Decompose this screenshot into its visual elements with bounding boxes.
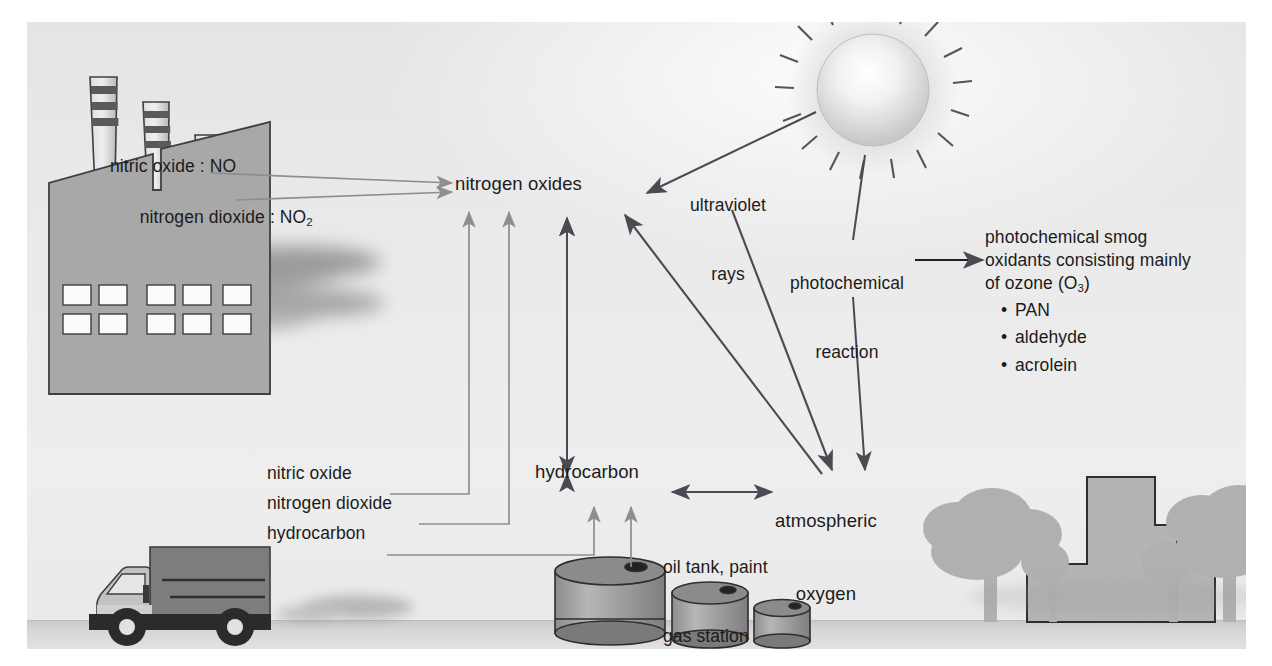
label-photochemical-line2: reaction	[779, 341, 915, 364]
label-smog-line3: of ozone (O3)	[985, 272, 1235, 295]
list-item: PAN	[1015, 297, 1235, 324]
label-smog-line2: oxidants consisting mainly	[985, 249, 1235, 272]
node-photochemical-reaction: photochemical reaction	[779, 226, 915, 411]
arrow-vehicle-hc-to-hydrocarbon	[387, 507, 594, 555]
label-ozone-close: )	[1084, 273, 1090, 293]
label-smog-line1: photochemical smog	[985, 226, 1235, 249]
node-hydrocarbon: hydrocarbon	[535, 460, 639, 484]
subscript-2: 2	[306, 216, 313, 228]
label-oil-tank-line2: gas station	[663, 625, 768, 648]
arrow-vehicle-no2-to-nox	[419, 212, 509, 524]
label-nitric-oxide-source: nitric oxide : NO	[110, 155, 236, 178]
label-oil-tank: oil tank, paint gas station	[663, 510, 768, 649]
label-atmospheric-line2: oxygen	[775, 582, 877, 606]
figure-page: nitric oxide : NO nitrogen dioxide : NO2…	[0, 0, 1272, 666]
node-nitrogen-oxides: nitrogen oxides	[455, 172, 582, 196]
list-item: acrolein	[1015, 352, 1235, 379]
label-uv-line2: rays	[673, 263, 783, 286]
arrow-vehicle-no-to-nox	[390, 212, 469, 494]
subscript-3: 3	[1078, 282, 1085, 294]
label-nitrogen-dioxide-source-text: nitrogen dioxide : NO	[140, 207, 307, 227]
label-atmospheric-line1: atmospheric	[775, 509, 877, 533]
list-item: aldehyde	[1015, 324, 1235, 351]
label-oil-tank-line1: oil tank, paint	[663, 556, 768, 579]
node-photochemical-smog: photochemical smog oxidants consisting m…	[985, 226, 1235, 379]
label-vehicle-nitric-oxide: nitric oxide	[267, 462, 352, 485]
label-vehicle-hydrocarbon: hydrocarbon	[267, 522, 365, 545]
label-ozone-text: of ozone (O	[985, 273, 1078, 293]
arrow-no-to-nox	[210, 173, 452, 183]
label-vehicle-nitrogen-dioxide: nitrogen dioxide	[267, 492, 392, 515]
label-uv-line1: ultraviolet	[673, 194, 783, 217]
diagram-panel: nitric oxide : NO nitrogen dioxide : NO2…	[27, 22, 1246, 649]
oxidant-list: PAN aldehyde acrolein	[985, 297, 1235, 378]
node-atmospheric-oxygen: atmospheric oxygen	[775, 460, 877, 649]
label-photochemical-line1: photochemical	[779, 272, 915, 295]
cropped-caption	[27, 0, 727, 4]
label-ultraviolet-rays: ultraviolet rays	[673, 148, 783, 333]
label-nitrogen-dioxide-source: nitrogen dioxide : NO2	[110, 183, 313, 252]
